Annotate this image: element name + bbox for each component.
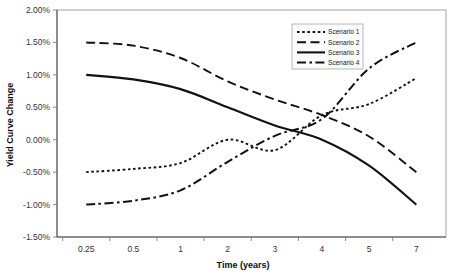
x-tick-label: 1 bbox=[178, 244, 183, 254]
legend-label-1: Scenario 1 bbox=[328, 28, 360, 35]
legend-label-4: Scenario 4 bbox=[328, 59, 360, 66]
legend-label-2: Scenario 2 bbox=[328, 39, 360, 46]
y-tick-label: 0.00% bbox=[26, 135, 51, 145]
x-axis-title: Time (years) bbox=[217, 260, 270, 270]
y-tick-label: 2.00% bbox=[26, 5, 51, 15]
y-tick-label: 1.00% bbox=[26, 70, 51, 80]
legend-label-3: Scenario 3 bbox=[328, 49, 360, 56]
yield-curve-chart: 2.00%1.50%1.00%0.50%0.00%-0.50%-1.00%-1.… bbox=[0, 0, 453, 274]
y-tick-label: 1.50% bbox=[26, 37, 51, 47]
x-tick-label: 5 bbox=[367, 244, 372, 254]
y-tick-label: 0.50% bbox=[26, 102, 51, 112]
x-tick-label: 3 bbox=[272, 244, 277, 254]
x-tick-label: 0.25 bbox=[78, 244, 95, 254]
x-tick-label: 2 bbox=[225, 244, 230, 254]
y-tick-label: -1.00% bbox=[23, 200, 50, 210]
chart-legend: Scenario 1Scenario 2Scenario 3Scenario 4 bbox=[292, 24, 363, 69]
chart-canvas: 2.00%1.50%1.00%0.50%0.00%-0.50%-1.00%-1.… bbox=[0, 0, 453, 274]
y-axis-title: Yield Curve Change bbox=[5, 83, 15, 168]
x-tick-label: 0.5 bbox=[127, 244, 139, 254]
x-tick-label: 7 bbox=[414, 244, 419, 254]
chart-background bbox=[0, 0, 453, 274]
y-tick-label: -0.50% bbox=[23, 167, 50, 177]
x-tick-label: 4 bbox=[320, 244, 325, 254]
y-tick-label: -1.50% bbox=[23, 232, 50, 242]
